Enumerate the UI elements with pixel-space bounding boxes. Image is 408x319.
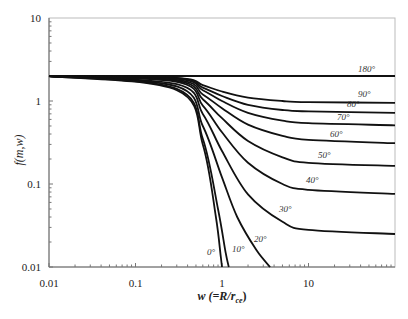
x-tick-label: 10 (303, 277, 315, 289)
curves (49, 76, 395, 267)
curve-label: 40° (306, 175, 319, 185)
curve-label: 50° (318, 150, 331, 160)
curve-label: 70° (337, 112, 350, 122)
curve-label: 30° (278, 204, 292, 214)
x-tick-label: 0.01 (39, 277, 58, 289)
curve-label: 0° (207, 247, 216, 257)
curve-label: 180° (358, 64, 376, 74)
curve-label: 60° (330, 129, 343, 139)
curve-90deg (49, 76, 395, 103)
chart: 0.010.1110 0.010.1110 180°90°80°70°60°50… (0, 0, 408, 319)
y-axis-title: f(m,w) (12, 135, 26, 166)
axis-ticks (49, 22, 391, 267)
curve-30deg (49, 76, 395, 234)
x-tick-label: 1 (219, 277, 225, 289)
y-tick-label: 10 (30, 12, 42, 24)
curve-label: 10° (232, 244, 245, 254)
curve-label: 90° (358, 89, 371, 99)
x-tick-labels: 0.010.1110 (39, 277, 314, 289)
x-tick-label: 0.1 (129, 277, 143, 289)
curve-20deg (49, 76, 270, 267)
y-tick-label: 0.01 (22, 261, 41, 273)
curve-label: 20° (254, 234, 267, 244)
x-axis-title: w (=R/rce) (198, 289, 247, 305)
y-tick-label: 0.1 (27, 178, 41, 190)
curve-label: 80° (347, 99, 360, 109)
y-tick-label: 1 (36, 95, 42, 107)
